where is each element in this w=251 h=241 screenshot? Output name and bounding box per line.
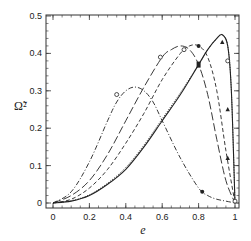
x-tick-label: 1 [232, 212, 237, 222]
plot-border [46, 15, 239, 208]
marker-filled-circle [200, 190, 204, 194]
x-tick-label: 0.2 [83, 212, 96, 222]
x-tick-label: 0.8 [192, 212, 205, 222]
x-tick-label: 0.4 [120, 212, 133, 222]
series-solid [53, 34, 235, 203]
marker-open-circle [158, 55, 162, 59]
x-tick-label: 0.6 [156, 212, 169, 222]
series-markers [115, 40, 237, 203]
series-lines [53, 34, 235, 203]
y-tick-label: 0 [37, 198, 42, 208]
marker-open-circle [182, 48, 186, 52]
marker-open-circle [233, 199, 237, 203]
marker-open-circle [115, 93, 119, 97]
plot-frame [46, 15, 239, 208]
y-ticks: 00.10.20.30.40.5 [29, 11, 239, 208]
y-tick-label: 0.5 [29, 11, 42, 21]
series-dotted [53, 34, 235, 203]
chart: 00.20.40.60.81 00.10.20.30.40.5 e Ω̃² [0, 0, 251, 241]
y-tick-label: 0.1 [29, 161, 42, 171]
y-tick-label: 0.4 [29, 48, 42, 58]
y-axis-label: Ω̃² [14, 99, 27, 113]
marker-open-circle [226, 59, 230, 63]
y-tick-label: 0.2 [29, 123, 42, 133]
series-long-dash [53, 46, 235, 203]
marker-filled-triangle [226, 107, 230, 111]
marker-filled-circle [197, 44, 201, 48]
series-dash-dot [53, 87, 235, 203]
marker-filled-triangle [226, 156, 230, 160]
x-tick-label: 0 [50, 212, 55, 222]
x-axis-label: e [140, 223, 146, 237]
marker-filled-triangle [220, 40, 224, 44]
marker-filled-square [197, 62, 201, 68]
y-tick-label: 0.3 [29, 86, 42, 96]
